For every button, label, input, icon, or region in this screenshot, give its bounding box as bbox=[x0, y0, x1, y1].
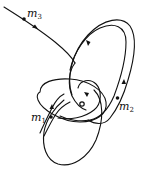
m1-label-subscript: 1 bbox=[41, 117, 45, 125]
m3-body-dot bbox=[22, 17, 26, 21]
m1-lower-loop bbox=[44, 90, 102, 165]
orbit-canvas bbox=[0, 0, 148, 178]
m3-label: m3 bbox=[27, 8, 42, 21]
center-loop-arrow-icon bbox=[84, 92, 89, 97]
m2-label: m2 bbox=[119, 101, 134, 114]
m2-label-subscript: 2 bbox=[129, 106, 133, 114]
m2-right-arrow-icon bbox=[122, 79, 127, 84]
m3-label-subscript: 3 bbox=[37, 13, 41, 21]
three-body-orbit-diagram: m3 m2 m1 bbox=[0, 0, 148, 178]
m1-label: m1 bbox=[31, 112, 46, 125]
center-of-mass-marker bbox=[80, 102, 84, 106]
m2-label-symbol: m bbox=[119, 100, 129, 113]
m1-middle-ellipse bbox=[37, 79, 106, 122]
m1-label-symbol: m bbox=[31, 111, 41, 124]
m2-upper-arrow-icon bbox=[86, 40, 91, 46]
m1-body-dot bbox=[49, 115, 53, 119]
m3-label-symbol: m bbox=[27, 7, 37, 20]
